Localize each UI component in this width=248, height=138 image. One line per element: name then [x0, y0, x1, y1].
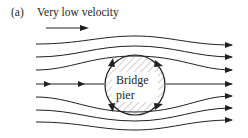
surface-arrow-lr	[154, 103, 163, 110]
streamline-7	[36, 120, 232, 130]
surface-arrow-ul	[108, 58, 115, 67]
pier-label-line1: Bridge	[116, 73, 149, 87]
velocity-arrow	[46, 25, 89, 31]
surface-arrow-ur	[154, 60, 163, 67]
streamline-1	[36, 36, 232, 45]
flow-diagram: Bridge pier	[0, 0, 248, 138]
bridge-pier: Bridge pier	[105, 55, 165, 115]
pier-label-line2: pier	[116, 88, 135, 102]
